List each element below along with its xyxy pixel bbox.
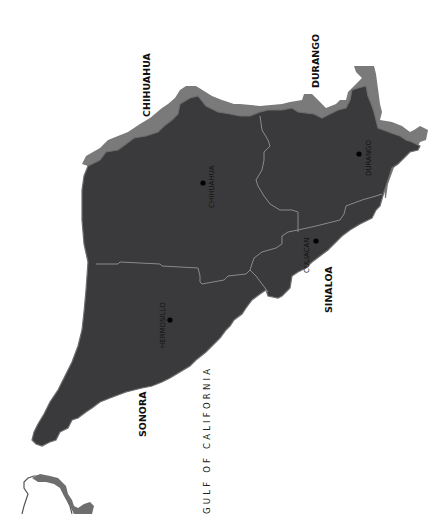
- city-dot-culiacan: [313, 238, 318, 243]
- locator-inset: [22, 474, 94, 514]
- city-label-durango: DURANGO: [365, 139, 373, 176]
- state-label-durango: DURANGO: [310, 34, 321, 88]
- state-label-sonora: SONORA: [137, 391, 148, 437]
- city-label-culiacan: CULIACAN: [303, 237, 311, 273]
- state-label-chihuahua: CHIHUAHUA: [141, 52, 152, 117]
- city-dot-durango: [356, 151, 361, 156]
- city-dot-chihuahua: [200, 180, 205, 185]
- city-label-chihuahua: CHIHUAHUA: [208, 165, 216, 208]
- map-canvas: CHIHUAHUA DURANGO HERMOSILLO CULIACAN CH…: [0, 0, 439, 514]
- water-label-gulf-of-california: GULF OF CALIFORNIA: [202, 366, 212, 514]
- city-dot-hermosillo: [167, 317, 172, 322]
- land-mass: [32, 86, 420, 446]
- state-label-sinaloa: SINALOA: [323, 266, 334, 313]
- city-label-hermosillo: HERMOSILLO: [159, 302, 167, 348]
